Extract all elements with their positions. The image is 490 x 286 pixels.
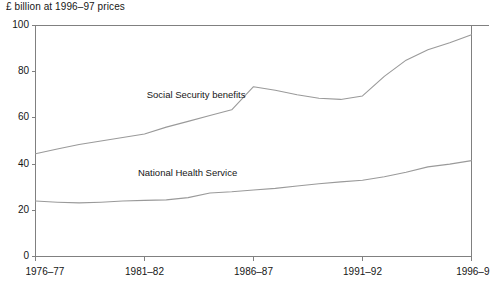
series-label-nhs: National Health Service <box>138 167 237 178</box>
chart-container: £ billion at 1996–97 prices 020406080100… <box>0 0 490 286</box>
x-axis-tick-label: 1976–77 <box>26 266 65 277</box>
y-axis-tick-label: 100 <box>3 19 29 30</box>
x-axis-tick-label: 1991–92 <box>343 266 382 277</box>
series-line-social-security <box>36 35 472 154</box>
y-axis-tick-label: 20 <box>3 204 29 215</box>
x-axis-tick-label: 1981–82 <box>125 266 164 277</box>
x-axis-tick-label: 1986–87 <box>234 266 273 277</box>
y-axis-tick-label: 60 <box>3 111 29 122</box>
y-axis-tick-label: 0 <box>3 250 29 261</box>
series-line-nhs <box>36 161 472 203</box>
series-label-social-security: Social Security benefits <box>147 89 246 100</box>
chart-axes <box>32 26 490 261</box>
y-axis-tick-label: 40 <box>3 158 29 169</box>
chart-series <box>36 35 472 203</box>
x-axis-tick-label: 1996–9 <box>456 266 489 277</box>
line-chart-plot <box>0 0 490 286</box>
y-axis-tick-label: 80 <box>3 65 29 76</box>
